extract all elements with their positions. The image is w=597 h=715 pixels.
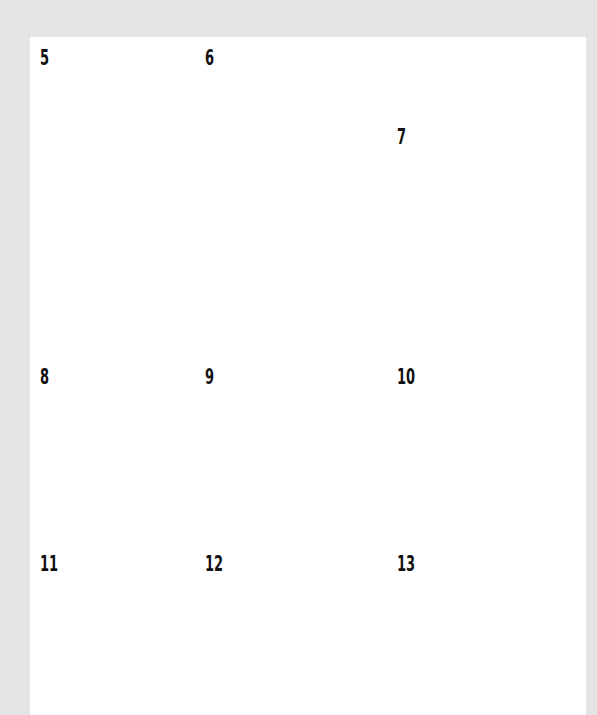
step-number: 11	[40, 552, 58, 576]
step-number: 6	[205, 46, 214, 70]
step-number: 9	[205, 365, 214, 389]
step-number: 5	[40, 46, 49, 70]
step-number: 10	[397, 365, 415, 389]
step-number: 8	[40, 365, 49, 389]
step-number: 12	[205, 552, 223, 576]
step-number: 13	[397, 552, 415, 576]
step-number: 7	[397, 125, 406, 149]
